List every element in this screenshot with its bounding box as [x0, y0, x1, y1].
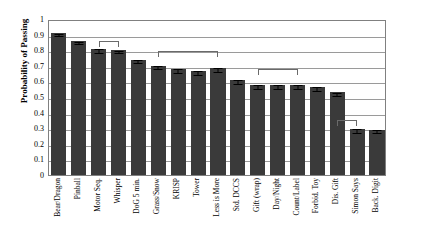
x-tick-label: Day/Night [273, 178, 281, 210]
error-bar-cap [253, 85, 262, 86]
x-label-slot: Less is More [207, 176, 227, 249]
x-label-slot: Count/Label [287, 176, 307, 249]
x-label-slot: Pinball [68, 176, 88, 249]
bar-slot [307, 21, 327, 175]
error-bar-cap [253, 89, 262, 90]
y-tick-label: 0.4 [18, 110, 44, 118]
x-tick-label: Simon Says [352, 178, 360, 214]
y-tick-label: 1 [18, 16, 44, 24]
significance-bracket [99, 41, 119, 47]
x-tick-label: Back. Digit [372, 178, 380, 213]
bar [131, 60, 146, 175]
x-tick-label: KRISP [173, 178, 181, 199]
error-bar-cap [174, 69, 183, 70]
x-tick-label: Bear/Dragon [54, 178, 62, 217]
error-bar-cap [313, 87, 322, 88]
x-tick-label: Forbid. Toy [312, 178, 320, 213]
bar-slot [49, 21, 69, 175]
x-label-slot: Grass/Snow [147, 176, 167, 249]
x-tick-label: Whisper [114, 178, 122, 203]
bar [230, 80, 245, 175]
significance-bracket [158, 51, 218, 57]
bar [369, 130, 384, 175]
significance-bracket [258, 69, 298, 75]
error-bar-cap [74, 42, 83, 43]
error-bar-cap [333, 96, 342, 97]
x-label-slot: Tower [187, 176, 207, 249]
x-label-slot: KRISP [167, 176, 187, 249]
bar-slot [347, 21, 367, 175]
y-tick-label: 0.2 [18, 141, 44, 149]
bar-slot [69, 21, 89, 175]
error-bar-cap [94, 53, 103, 54]
error-bar-cap [74, 44, 83, 45]
error-bar-cap [54, 36, 63, 37]
error-bar-cap [313, 91, 322, 92]
bar [171, 69, 186, 175]
bar [191, 71, 206, 175]
error-bar-cap [293, 85, 302, 86]
y-tick-label: 0.3 [18, 125, 44, 133]
x-tick-label: Motor Seq. [94, 178, 102, 212]
bar-chart: Probability of Passing 00.10.20.30.40.50… [0, 0, 435, 249]
bar [111, 50, 126, 175]
error-bar-cap [373, 130, 382, 131]
error-bar-cap [333, 93, 342, 94]
bar [310, 87, 325, 175]
x-axis-tick-labels: Bear/DragonPinballMotor Seq.WhisperDoG 5… [48, 176, 386, 249]
y-tick-label: 0.1 [18, 156, 44, 164]
x-label-slot: Simon Says [346, 176, 366, 249]
bar-slot [188, 21, 208, 175]
y-tick-label: 0.7 [18, 63, 44, 71]
x-label-slot: Back. Digit [366, 176, 386, 249]
error-bar-cap [373, 133, 382, 134]
x-label-slot: Forbid. Toy [306, 176, 326, 249]
error-bar-cap [54, 34, 63, 35]
error-bar-cap [353, 129, 362, 130]
bar-slot [208, 21, 228, 175]
bar [71, 41, 86, 175]
x-label-slot: Whisper [108, 176, 128, 249]
x-label-slot: Day/Night [267, 176, 287, 249]
bar [250, 85, 265, 175]
bar [91, 49, 106, 175]
error-bar-cap [94, 49, 103, 50]
bar-slot [268, 21, 288, 175]
bar-slot [148, 21, 168, 175]
bar-slot [228, 21, 248, 175]
error-bar-cap [273, 89, 282, 90]
y-tick-label: 0.6 [18, 78, 44, 86]
x-tick-label: Grass/Snow [153, 178, 161, 214]
error-bar-cap [194, 71, 203, 72]
x-tick-label: Tower [193, 178, 201, 197]
error-bar-cap [134, 60, 143, 61]
y-tick-label: 0 [18, 172, 44, 180]
x-label-slot: Motor Seq. [88, 176, 108, 249]
bar [350, 129, 365, 175]
bar [151, 66, 166, 175]
error-bar-cap [174, 73, 183, 74]
error-bar-cap [233, 80, 242, 81]
error-bar-cap [134, 63, 143, 64]
bar-slot [288, 21, 308, 175]
x-tick-label: DoG 5 min. [133, 178, 141, 214]
x-tick-label: Pinball [74, 178, 82, 199]
bar [210, 68, 225, 175]
bar-slot [327, 21, 347, 175]
bar-slot [248, 21, 268, 175]
bar [51, 33, 66, 175]
bar-slot [367, 21, 387, 175]
error-bar-cap [233, 84, 242, 85]
error-bar-cap [114, 51, 123, 52]
x-label-slot: Bear/Dragon [48, 176, 68, 249]
error-bar-cap [194, 75, 203, 76]
y-tick-label: 0.5 [18, 94, 44, 102]
x-tick-label: Dis. Gift [332, 178, 340, 204]
plot-area [48, 20, 386, 176]
x-label-slot: Std. DCCS [227, 176, 247, 249]
error-bar-cap [213, 68, 222, 69]
error-bar-cap [154, 66, 163, 67]
error-bar-cap [293, 89, 302, 90]
y-axis-tick-labels: 00.10.20.30.40.50.60.70.80.91 [18, 0, 44, 249]
bar [290, 85, 305, 175]
